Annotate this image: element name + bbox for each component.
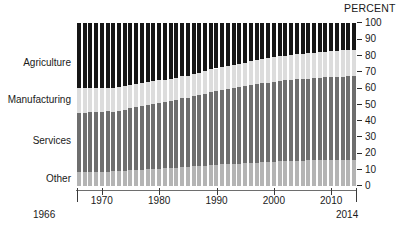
bar-segment-manufacturing bbox=[237, 64, 241, 87]
bar-segment-services bbox=[226, 89, 230, 164]
bar-segment-other bbox=[157, 169, 161, 186]
bar-segment-agriculture bbox=[352, 23, 356, 50]
bar-segment-services bbox=[260, 83, 264, 162]
bar-segment-other bbox=[117, 171, 121, 186]
bar-segment-agriculture bbox=[163, 23, 167, 80]
bar-segment-services bbox=[192, 96, 196, 166]
bar-segment-services bbox=[312, 78, 316, 160]
bar-segment-services bbox=[203, 94, 207, 166]
bar-segment-agriculture bbox=[111, 23, 115, 88]
bar-1991 bbox=[220, 23, 224, 186]
bar-segment-services bbox=[289, 80, 293, 161]
x-tick-label-2010: 2010 bbox=[320, 195, 342, 206]
bar-segment-other bbox=[260, 162, 264, 186]
bar-1978 bbox=[146, 23, 150, 186]
y-tick-label: 90 bbox=[365, 33, 376, 44]
bar-segment-other bbox=[163, 168, 167, 186]
bar-1984 bbox=[180, 23, 184, 186]
bar-segment-services bbox=[140, 106, 144, 170]
bar-segment-agriculture bbox=[214, 23, 218, 68]
bar-segment-agriculture bbox=[346, 23, 350, 50]
bar-segment-services bbox=[94, 112, 98, 172]
bar-segment-services bbox=[128, 108, 132, 170]
bar-segment-agriculture bbox=[237, 23, 241, 64]
bar-segment-manufacturing bbox=[214, 69, 218, 92]
bar-segment-agriculture bbox=[272, 23, 276, 57]
bar-segment-other bbox=[203, 166, 207, 186]
bar-segment-services bbox=[106, 111, 110, 171]
y-tick-label: 20 bbox=[365, 147, 376, 158]
x-tick-label-1980: 1980 bbox=[148, 195, 170, 206]
bar-segment-manufacturing bbox=[157, 80, 161, 102]
bar-1976 bbox=[134, 23, 138, 186]
bar-segment-agriculture bbox=[255, 23, 259, 60]
bar-segment-other bbox=[306, 160, 310, 186]
bar-segment-services bbox=[249, 85, 253, 163]
bar-1985 bbox=[186, 23, 190, 186]
bar-segment-agriculture bbox=[329, 23, 333, 51]
bar-1990 bbox=[214, 23, 218, 186]
bar-segment-manufacturing bbox=[151, 81, 155, 104]
bar-segment-manufacturing bbox=[289, 55, 293, 80]
bar-2010 bbox=[329, 23, 333, 186]
bar-segment-manufacturing bbox=[220, 67, 224, 90]
bar-segment-manufacturing bbox=[117, 87, 121, 111]
bar-1998 bbox=[260, 23, 264, 186]
y-tick-mark bbox=[357, 71, 362, 72]
bar-2001 bbox=[278, 23, 282, 186]
bar-segment-manufacturing bbox=[123, 86, 127, 110]
bar-segment-manufacturing bbox=[260, 59, 264, 83]
bar-segment-services bbox=[335, 77, 339, 160]
y-tick-mark bbox=[357, 169, 362, 170]
bar-segment-agriculture bbox=[88, 23, 92, 88]
bar-segment-manufacturing bbox=[77, 88, 81, 112]
y-tick-label: 70 bbox=[365, 66, 376, 77]
bar-segment-services bbox=[323, 77, 327, 159]
bar-segment-services bbox=[346, 76, 350, 159]
bar-2004 bbox=[295, 23, 299, 186]
bar-segment-agriculture bbox=[94, 23, 98, 88]
bar-1992 bbox=[226, 23, 230, 186]
bar-segment-agriculture bbox=[266, 23, 270, 58]
series-label-services: Services bbox=[33, 135, 71, 146]
y-tick-mark bbox=[357, 120, 362, 121]
bar-segment-services bbox=[123, 110, 127, 171]
bar-segment-manufacturing bbox=[232, 65, 236, 88]
bar-segment-services bbox=[272, 82, 276, 162]
y-tick-30: 30 bbox=[357, 131, 376, 143]
bar-segment-agriculture bbox=[243, 23, 247, 63]
bar-segment-services bbox=[266, 83, 270, 163]
bar-segment-other bbox=[341, 160, 345, 186]
bar-segment-agriculture bbox=[301, 23, 305, 54]
bar-segment-manufacturing bbox=[146, 82, 150, 105]
bar-1996 bbox=[249, 23, 253, 186]
bar-segment-agriculture bbox=[83, 23, 87, 88]
bar-segment-services bbox=[318, 78, 322, 160]
bar-segment-agriculture bbox=[157, 23, 161, 80]
bar-segment-agriculture bbox=[77, 23, 81, 88]
bar-segment-manufacturing bbox=[106, 88, 110, 112]
bar-segment-manufacturing bbox=[346, 50, 350, 77]
bar-segment-other bbox=[312, 160, 316, 186]
bar-segment-services bbox=[255, 84, 259, 162]
bar-segment-agriculture bbox=[220, 23, 224, 67]
bar-segment-services bbox=[169, 101, 173, 168]
y-tick-label: 10 bbox=[365, 164, 376, 175]
bar-segment-services bbox=[220, 90, 224, 164]
x-tick-mark-1970 bbox=[102, 188, 103, 195]
x-axis-edge-mark-end bbox=[356, 188, 357, 202]
x-tick-mark-2010 bbox=[331, 188, 332, 195]
y-tick-mark bbox=[357, 39, 362, 40]
bar-segment-services bbox=[214, 91, 218, 165]
bar-1988 bbox=[203, 23, 207, 186]
bar-2009 bbox=[323, 23, 327, 186]
bar-segment-agriculture bbox=[278, 23, 282, 56]
bar-segment-manufacturing bbox=[243, 63, 247, 87]
bar-segment-agriculture bbox=[306, 23, 310, 53]
bar-1993 bbox=[232, 23, 236, 186]
bar-segment-agriculture bbox=[169, 23, 173, 79]
bar-segment-agriculture bbox=[341, 23, 345, 50]
bar-1982 bbox=[169, 23, 173, 186]
bar-segment-other bbox=[329, 160, 333, 186]
x-axis-end-label: 2014 bbox=[336, 209, 358, 220]
